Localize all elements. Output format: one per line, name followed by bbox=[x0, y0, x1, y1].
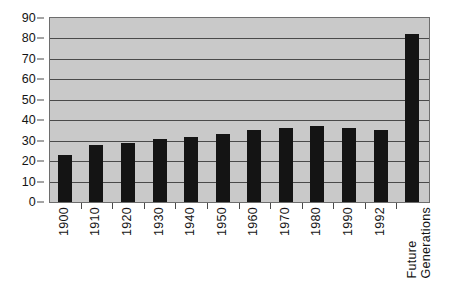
bar-1940 bbox=[184, 137, 198, 202]
y-tick-mark-20 bbox=[37, 161, 44, 162]
bar-1920 bbox=[121, 143, 135, 202]
x-tick-label-1970: 1970 bbox=[279, 207, 292, 236]
bar-future-generations bbox=[405, 34, 419, 202]
y-tick-mark-10 bbox=[37, 181, 44, 182]
x-tick-label-1960: 1960 bbox=[247, 207, 260, 236]
gridline-70 bbox=[50, 59, 429, 60]
y-tick-label-30: 30 bbox=[22, 134, 36, 147]
y-tick-label-90: 90 bbox=[22, 12, 36, 25]
x-tick-label-1900: 1900 bbox=[58, 207, 71, 236]
gridline-20 bbox=[50, 161, 429, 162]
y-tick-mark-30 bbox=[37, 140, 44, 141]
y-tick-label-40: 40 bbox=[22, 114, 36, 127]
y-tick-label-50: 50 bbox=[22, 94, 36, 107]
x-axis: 1900191019201930194019501960197019801990… bbox=[49, 207, 430, 283]
x-tick-label-future-generations: Future Generations bbox=[405, 207, 434, 278]
y-tick-label-0: 0 bbox=[29, 196, 36, 209]
bar-1910 bbox=[89, 145, 103, 202]
x-tick-label-1920: 1920 bbox=[121, 207, 134, 236]
bar-1980 bbox=[310, 126, 324, 202]
bar-1930 bbox=[153, 139, 167, 202]
y-axis: 9080706050403020100 bbox=[0, 17, 44, 203]
y-tick-label-60: 60 bbox=[22, 73, 36, 86]
bar-1990 bbox=[342, 128, 356, 202]
gridline-40 bbox=[50, 120, 429, 121]
y-tick-mark-80 bbox=[37, 38, 44, 39]
x-tick-label-1980: 1980 bbox=[310, 207, 323, 236]
gridline-60 bbox=[50, 79, 429, 80]
y-tick-label-10: 10 bbox=[22, 175, 36, 188]
y-tick-mark-40 bbox=[37, 120, 44, 121]
y-tick-label-80: 80 bbox=[22, 32, 36, 45]
gridline-30 bbox=[50, 141, 429, 142]
y-tick-mark-90 bbox=[37, 18, 44, 19]
y-tick-label-70: 70 bbox=[22, 53, 36, 66]
x-tick-label-1940: 1940 bbox=[184, 207, 197, 236]
y-tick-label-20: 20 bbox=[22, 155, 36, 168]
bar-1900 bbox=[58, 155, 72, 202]
bar-1992 bbox=[374, 130, 388, 202]
y-tick-mark-50 bbox=[37, 99, 44, 100]
y-tick-mark-60 bbox=[37, 79, 44, 80]
gridline-10 bbox=[50, 182, 429, 183]
x-tick-label-1910: 1910 bbox=[89, 207, 102, 236]
y-tick-mark-70 bbox=[37, 58, 44, 59]
plot-area bbox=[49, 17, 430, 203]
bar-chart-figure: 9080706050403020100 19001910192019301940… bbox=[0, 0, 449, 283]
bar-1950 bbox=[216, 134, 230, 202]
bar-1970 bbox=[279, 128, 293, 202]
y-tick-mark-0 bbox=[37, 202, 44, 203]
x-tick-label-1950: 1950 bbox=[216, 207, 229, 236]
bar-1960 bbox=[247, 130, 261, 202]
x-tick-label-1990: 1990 bbox=[342, 207, 355, 236]
gridline-80 bbox=[50, 38, 429, 39]
x-tick-label-1930: 1930 bbox=[153, 207, 166, 236]
x-tick-label-1992: 1992 bbox=[374, 207, 387, 236]
gridline-50 bbox=[50, 100, 429, 101]
